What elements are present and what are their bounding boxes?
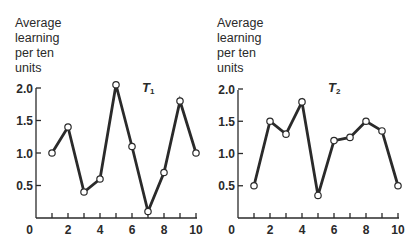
- series-line: [254, 102, 398, 196]
- x-tick-label: 10: [189, 223, 203, 237]
- x-tick-label: 0: [26, 223, 33, 237]
- y-axis-label-line: Average: [15, 16, 61, 30]
- data-point: [267, 118, 273, 124]
- y-tick-label: 2.0: [218, 83, 235, 97]
- y-axis-label-line: learning: [15, 31, 60, 45]
- y-tick-label: 0.5: [16, 179, 33, 193]
- data-point: [113, 82, 119, 88]
- y-tick-label: 1.0: [218, 147, 235, 161]
- y-tick-label: 2.0: [16, 82, 33, 96]
- series-title: T1: [142, 80, 155, 96]
- data-point: [299, 99, 305, 105]
- x-tick-label: 0: [228, 223, 235, 237]
- series-line: [52, 85, 196, 212]
- series-title-subscript: 2: [336, 87, 341, 96]
- series-title-subscript: 1: [150, 87, 155, 96]
- y-tick-label: 1.0: [16, 147, 33, 161]
- data-point: [347, 134, 353, 140]
- data-point: [331, 137, 337, 143]
- x-tick-label: 6: [129, 223, 136, 237]
- x-tick-label: 8: [161, 223, 168, 237]
- charts-canvas: Averagelearningper tenunits0.51.01.52.00…: [0, 0, 415, 249]
- data-point: [161, 169, 167, 175]
- x-tick-label: 4: [299, 223, 306, 237]
- data-point: [283, 131, 289, 137]
- data-point: [315, 192, 321, 198]
- y-axis-label-line: learning: [217, 31, 262, 45]
- y-axis-label-line: units: [217, 61, 243, 75]
- data-point: [145, 208, 151, 214]
- x-tick-label: 6: [331, 223, 338, 237]
- x-tick-label: 8: [363, 223, 370, 237]
- y-axis-label-line: per ten: [217, 46, 256, 60]
- data-point: [395, 183, 401, 189]
- data-point: [379, 128, 385, 134]
- chart-panel-2: Averagelearningper tenunits0.51.01.52.00…: [217, 16, 405, 237]
- data-point: [129, 143, 135, 149]
- data-point: [177, 98, 183, 104]
- data-point: [81, 189, 87, 195]
- data-point: [193, 150, 199, 156]
- data-point: [49, 150, 55, 156]
- x-tick-label: 10: [391, 223, 405, 237]
- data-point: [251, 183, 257, 189]
- data-point: [363, 118, 369, 124]
- x-tick-label: 4: [97, 223, 104, 237]
- y-tick-label: 1.5: [218, 115, 235, 129]
- y-tick-label: 0.5: [218, 179, 235, 193]
- x-tick-label: 2: [267, 223, 274, 237]
- y-axis-label-line: per ten: [15, 46, 54, 60]
- y-axis-label-line: units: [15, 61, 41, 75]
- data-point: [97, 176, 103, 182]
- series-title: T2: [328, 80, 341, 96]
- data-point: [65, 124, 71, 130]
- y-tick-label: 1.5: [16, 114, 33, 128]
- x-tick-label: 2: [65, 223, 72, 237]
- chart-panel-1: Averagelearningper tenunits0.51.01.52.00…: [15, 16, 203, 237]
- y-axis-label-line: Average: [217, 16, 263, 30]
